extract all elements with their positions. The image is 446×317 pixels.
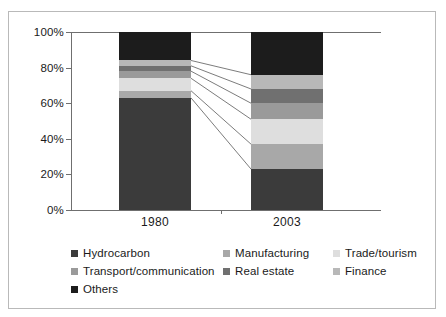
bar-1980[interactable] [119,32,191,210]
legend-item-real-estate[interactable]: Real estate [223,265,333,277]
y-tick-mark [66,139,71,140]
bar-segment-others[interactable] [119,32,191,60]
legend-row: Others [71,280,421,298]
legend-swatch-icon [71,268,78,275]
legend-swatch-icon [71,250,78,257]
y-tick-label: 20% [40,168,64,180]
legend-item-hydrocarbon[interactable]: Hydrocarbon [71,247,223,259]
legend-swatch-icon [333,268,340,275]
y-tick-mark [66,103,71,104]
chart-legend: HydrocarbonManufacturingTrade/tourismTra… [71,244,421,298]
bar-2003[interactable] [251,32,323,210]
connector-line [191,60,251,74]
y-tick-mark [66,32,71,33]
legend-row: Transport/communicationReal estateFinanc… [71,262,421,280]
y-tick-mark [66,174,71,175]
y-tick-label: 60% [40,97,64,109]
legend-item-manufacturing[interactable]: Manufacturing [223,247,333,259]
chart-frame: 0%20%40%60%80%100% 19802003 HydrocarbonM… [8,11,436,309]
connector-line [191,78,251,119]
x-tick-label: 1980 [141,215,169,229]
y-tick-label: 100% [34,26,64,38]
legend-label: Hydrocarbon [83,247,150,259]
legend-row: HydrocarbonManufacturingTrade/tourism [71,244,421,262]
legend-swatch-icon [333,250,340,257]
legend-swatch-icon [71,286,78,293]
bar-segment-trade-tourism[interactable] [119,78,191,90]
legend-item-finance[interactable]: Finance [333,265,387,277]
x-tick-label: 2003 [273,215,301,229]
legend-label: Transport/communication [83,265,215,277]
connector-line [191,71,251,103]
legend-swatch-icon [223,250,230,257]
y-axis-line [71,32,72,210]
legend-label: Finance [345,265,387,277]
y-tick-label: 0% [47,204,64,216]
legend-label: Trade/tourism [345,247,417,259]
bar-segment-manufacturing[interactable] [119,91,191,98]
legend-item-others[interactable]: Others [71,283,223,295]
x-tick-mark [221,210,222,214]
legend-label: Manufacturing [235,247,309,259]
bar-segment-real-estate[interactable] [119,66,191,71]
bar-segment-real-estate[interactable] [251,89,323,103]
bar-segment-finance[interactable] [251,75,323,89]
bar-segment-hydrocarbon[interactable] [251,169,323,210]
plot-top-border [71,32,381,33]
connector-line [191,91,251,144]
legend-item-trade-tourism[interactable]: Trade/tourism [333,247,417,259]
y-tick-mark [66,210,71,211]
bar-segment-others[interactable] [251,32,323,75]
x-axis-line [71,210,381,211]
y-tick-label: 40% [40,133,64,145]
bar-segment-trade-tourism[interactable] [251,119,323,144]
connector-line [191,66,251,89]
bar-segment-finance[interactable] [119,60,191,65]
bar-segment-manufacturing[interactable] [251,144,323,169]
bar-segment-transport-communication[interactable] [251,103,323,119]
legend-label: Real estate [235,265,294,277]
y-tick-mark [66,68,71,69]
legend-swatch-icon [223,268,230,275]
clipped-figure-title [0,0,446,7]
bar-segment-transport-communication[interactable] [119,71,191,78]
connector-line [191,98,251,169]
legend-item-transport-communication[interactable]: Transport/communication [71,265,223,277]
bar-segment-hydrocarbon[interactable] [119,98,191,210]
y-tick-label: 80% [40,62,64,74]
legend-label: Others [83,283,118,295]
